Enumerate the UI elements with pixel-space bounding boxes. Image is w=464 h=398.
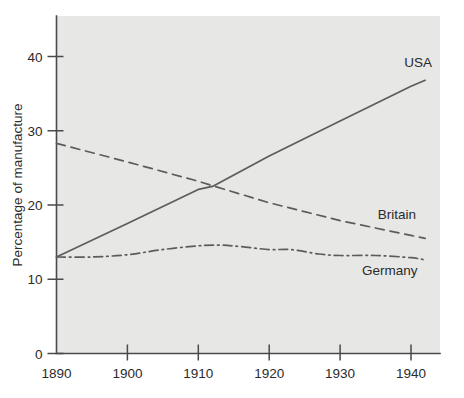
y-tick-label-40: 40	[27, 50, 42, 65]
series-label-britain: Britain	[378, 207, 416, 222]
x-tick-label-1940: 1940	[396, 366, 426, 381]
y-tick-label-30: 30	[27, 124, 42, 139]
y-tick-label-10: 10	[27, 272, 42, 287]
series-label-usa: USA	[404, 55, 432, 70]
x-tick-label-1930: 1930	[325, 366, 355, 381]
y-tick-label-20: 20	[27, 198, 42, 213]
line-chart: 010203040 189019001910192019301940 USABr…	[0, 0, 464, 398]
x-tick-label-1910: 1910	[183, 366, 213, 381]
series-label-germany: Germany	[362, 263, 418, 278]
x-tick-label-1920: 1920	[254, 366, 284, 381]
y-tick-label-0: 0	[35, 347, 43, 362]
x-tick-label-1890: 1890	[41, 366, 71, 381]
x-tick-label-1900: 1900	[112, 366, 142, 381]
chart-canvas: 010203040 189019001910192019301940 USABr…	[0, 0, 464, 398]
y-axis-title: Percentage of manufacture	[10, 104, 25, 267]
plot-area-background	[56, 16, 440, 353]
